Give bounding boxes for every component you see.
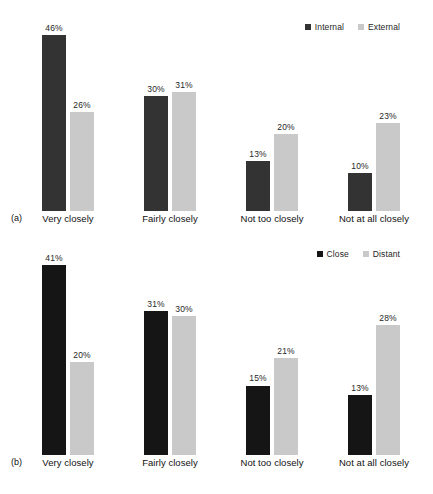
bar (246, 161, 270, 211)
bar (376, 325, 400, 455)
bar-value-label: 13% (342, 383, 378, 393)
plot-area-panel-b: 41%20%31%30%15%21%13%28% (0, 247, 433, 455)
bar (376, 123, 400, 211)
x-axis-label: Fairly closely (115, 457, 225, 468)
bar (144, 311, 168, 455)
x-axis-label: Not at all closely (319, 457, 429, 468)
bar (246, 386, 270, 456)
bar (172, 316, 196, 455)
bar (172, 92, 196, 211)
bar (274, 134, 298, 211)
bar-value-label: 20% (64, 350, 100, 360)
bar (70, 112, 94, 211)
bar-value-label: 13% (240, 149, 276, 159)
bar (42, 35, 66, 211)
bar-value-label: 21% (268, 346, 304, 356)
x-axis-label: Fairly closely (115, 213, 225, 224)
x-axis-label: Very closely (13, 213, 123, 224)
chart-panel-b: CloseDistant 41%20%31%30%15%21%13%28% (b… (0, 247, 433, 494)
plot-area-panel-a: 46%26%30%31%13%20%10%23% (0, 0, 433, 211)
bar (274, 358, 298, 455)
bar-value-label: 30% (166, 304, 202, 314)
bar-value-label: 23% (370, 111, 406, 121)
chart-panel-a: InternalExternal 46%26%30%31%13%20%10%23… (0, 0, 433, 247)
bar-value-label: 15% (240, 373, 276, 383)
bar-value-label: 31% (166, 80, 202, 90)
x-axis-label: Not too closely (217, 213, 327, 224)
bar-value-label: 41% (36, 253, 72, 263)
bar-value-label: 10% (342, 161, 378, 171)
x-axis-label: Not at all closely (319, 213, 429, 224)
bar (42, 265, 66, 455)
bar (348, 395, 372, 455)
bar (144, 96, 168, 211)
bar (70, 362, 94, 455)
x-axis-label: Not too closely (217, 457, 327, 468)
bar-value-label: 46% (36, 23, 72, 33)
bar-value-label: 28% (370, 313, 406, 323)
x-axis-label: Very closely (13, 457, 123, 468)
bar-value-label: 26% (64, 100, 100, 110)
bar-value-label: 20% (268, 122, 304, 132)
bar (348, 173, 372, 211)
